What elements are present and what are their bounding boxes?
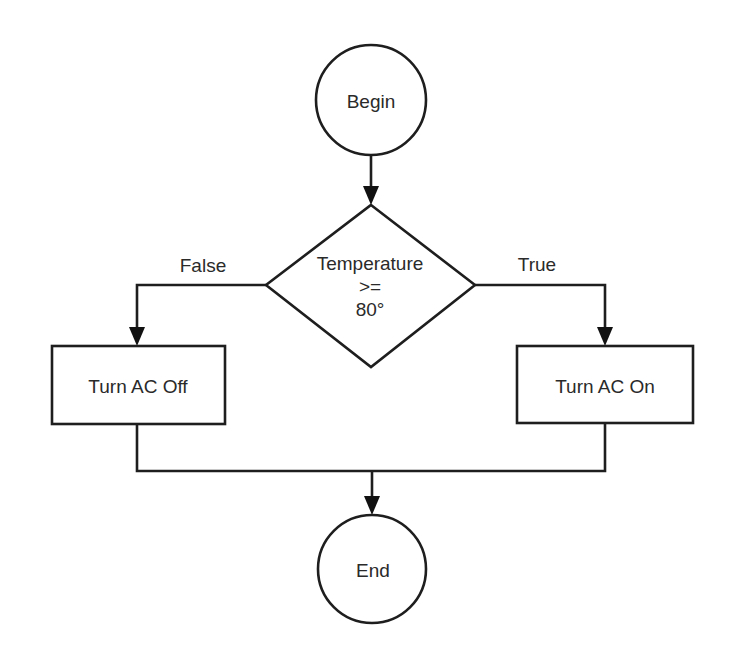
end-label: End [356, 561, 390, 580]
connector-true-branch [475, 285, 605, 330]
decision-label: Temperature >= 80° [317, 252, 424, 321]
false-branch-label: False [180, 256, 226, 275]
connector-merge [137, 423, 605, 471]
turn-ac-off-label: Turn AC Off [88, 377, 187, 396]
turn-ac-on-label: Turn AC On [555, 377, 655, 396]
arrow-down-icon [364, 496, 380, 515]
arrow-down-icon [363, 186, 379, 205]
true-branch-label: True [518, 255, 556, 274]
arrow-down-icon [129, 327, 145, 346]
arrow-down-icon [597, 327, 613, 346]
begin-label: Begin [347, 92, 396, 111]
decision-label-line-2: >= [317, 275, 424, 298]
decision-label-line-3: 80° [317, 298, 424, 321]
decision-label-line-1: Temperature [317, 252, 424, 275]
connector-false-branch [137, 285, 266, 330]
